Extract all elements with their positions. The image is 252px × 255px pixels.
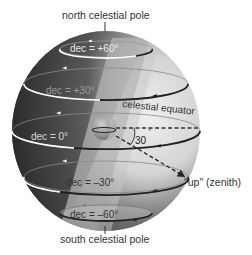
zenith-label: "up" (zenith): [184, 176, 241, 188]
celestial-sphere-svg: dec = +60° dec = +30° dec = 0° dec = –30…: [0, 0, 252, 255]
north-celestial-pole-label: north celestial pole: [62, 9, 150, 21]
dec-minus60-label: dec = –60°: [70, 209, 118, 220]
south-celestial-pole-label: south celestial pole: [60, 233, 149, 245]
dec-0-label: dec = 0°: [31, 131, 68, 142]
angle-value-label: 30: [135, 135, 147, 146]
dec-plus60-label: dec = +60°: [70, 43, 118, 54]
angle-degree-symbol: °: [148, 127, 151, 136]
earth-globe: [92, 116, 116, 140]
dec-plus30-label: dec = +30°: [46, 85, 94, 96]
dec-minus30-label: dec = –30°: [66, 177, 114, 188]
